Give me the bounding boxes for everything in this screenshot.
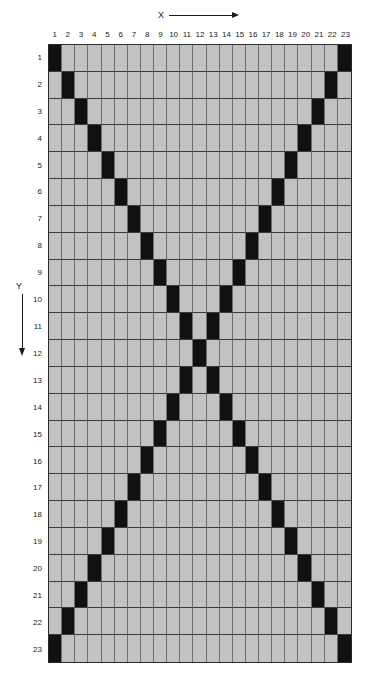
grid-cell	[180, 608, 193, 635]
grid-cell	[75, 635, 88, 662]
grid-cell	[141, 152, 154, 179]
grid-cell	[207, 152, 220, 179]
grid-cell	[193, 233, 206, 260]
grid-cell	[312, 528, 325, 555]
column-header-7: 7	[127, 28, 140, 42]
grid-cell	[285, 608, 298, 635]
row-header-16: 16	[18, 448, 44, 475]
grid-cell	[259, 45, 272, 72]
diagram-root: X Y 123456789101112131415161718192021222…	[0, 0, 366, 680]
grid-cell	[298, 233, 311, 260]
column-header-10: 10	[167, 28, 180, 42]
grid-cell	[193, 608, 206, 635]
grid-cell	[338, 45, 351, 72]
grid-cell	[312, 152, 325, 179]
grid-cell	[246, 421, 259, 448]
grid-cell	[141, 233, 154, 260]
grid-cell	[102, 474, 115, 501]
grid-cell	[298, 340, 311, 367]
column-header-23: 23	[339, 28, 352, 42]
grid-cell	[154, 528, 167, 555]
grid-cell	[272, 582, 285, 609]
grid-cell	[272, 125, 285, 152]
grid-cell	[338, 608, 351, 635]
grid-cell	[141, 394, 154, 421]
grid-cell	[75, 233, 88, 260]
grid-cell	[180, 313, 193, 340]
grid-cell	[49, 179, 62, 206]
grid-cell	[102, 179, 115, 206]
row-header-7: 7	[18, 205, 44, 232]
grid-cell	[167, 447, 180, 474]
grid-cell	[49, 313, 62, 340]
grid-cell	[141, 501, 154, 528]
grid-cell	[128, 421, 141, 448]
row-header-11: 11	[18, 313, 44, 340]
grid-cell	[88, 340, 101, 367]
grid-cell	[298, 260, 311, 287]
grid-cell	[115, 555, 128, 582]
column-header-2: 2	[61, 28, 74, 42]
grid-cell	[312, 206, 325, 233]
grid-cell	[285, 582, 298, 609]
grid-cell	[167, 152, 180, 179]
grid-cell	[246, 340, 259, 367]
grid-cell	[115, 447, 128, 474]
grid-cell	[102, 286, 115, 313]
grid-cell	[259, 72, 272, 99]
grid-cell	[75, 206, 88, 233]
column-header-8: 8	[141, 28, 154, 42]
grid-cell	[88, 528, 101, 555]
grid-cell	[75, 286, 88, 313]
row-header-20: 20	[18, 555, 44, 582]
grid-cell	[115, 528, 128, 555]
grid-cell	[75, 72, 88, 99]
grid-cell	[75, 367, 88, 394]
grid-cell	[259, 635, 272, 662]
grid-cell	[338, 474, 351, 501]
row-header-17: 17	[18, 475, 44, 502]
grid-cell	[75, 313, 88, 340]
grid-cell	[102, 635, 115, 662]
grid-cell	[167, 340, 180, 367]
grid-cell	[312, 179, 325, 206]
grid-cell	[207, 635, 220, 662]
grid-cell	[207, 582, 220, 609]
grid-cell	[259, 608, 272, 635]
grid-cell	[246, 125, 259, 152]
grid-cell	[102, 72, 115, 99]
grid-cell	[167, 260, 180, 287]
grid-cell	[298, 367, 311, 394]
grid-cell	[220, 474, 233, 501]
grid-cell	[207, 528, 220, 555]
grid-cell	[49, 260, 62, 287]
row-header-3: 3	[18, 98, 44, 125]
grid-cell	[115, 286, 128, 313]
grid-cell	[220, 340, 233, 367]
column-header-4: 4	[88, 28, 101, 42]
grid-cell	[102, 447, 115, 474]
grid-cell	[49, 45, 62, 72]
grid-cell	[62, 72, 75, 99]
grid-cell	[115, 501, 128, 528]
grid-cell	[62, 313, 75, 340]
grid-cell	[180, 528, 193, 555]
column-header-12: 12	[193, 28, 206, 42]
grid-cell	[102, 313, 115, 340]
grid-cell	[259, 582, 272, 609]
grid-cell	[88, 421, 101, 448]
row-header-15: 15	[18, 421, 44, 448]
grid-cell	[102, 206, 115, 233]
grid-cell	[259, 99, 272, 126]
grid-cell	[298, 125, 311, 152]
column-header-5: 5	[101, 28, 114, 42]
grid-cell	[272, 72, 285, 99]
grid-cell	[325, 45, 338, 72]
grid-cell	[285, 72, 298, 99]
grid-cell	[285, 260, 298, 287]
grid-cell	[128, 501, 141, 528]
grid-cell	[49, 501, 62, 528]
grid-cell	[298, 635, 311, 662]
grid-cell	[167, 45, 180, 72]
grid-cell	[102, 233, 115, 260]
